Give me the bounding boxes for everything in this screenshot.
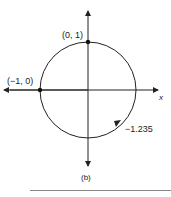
caption-divider <box>30 190 171 191</box>
arc-marker-label: −1.235 <box>125 125 153 134</box>
point-top-dot <box>86 40 90 44</box>
point-left-dot <box>38 88 42 92</box>
subfigure-label: (b) <box>81 174 91 182</box>
unit-circle-figure: (0, 1) (−1, 0) x −1.235 (b) <box>0 0 171 197</box>
unit-circle-diagram <box>0 0 171 197</box>
x-axis-label: x <box>159 94 163 102</box>
point-left-label: (−1, 0) <box>7 77 33 86</box>
point-top-label: (0, 1) <box>62 31 83 40</box>
